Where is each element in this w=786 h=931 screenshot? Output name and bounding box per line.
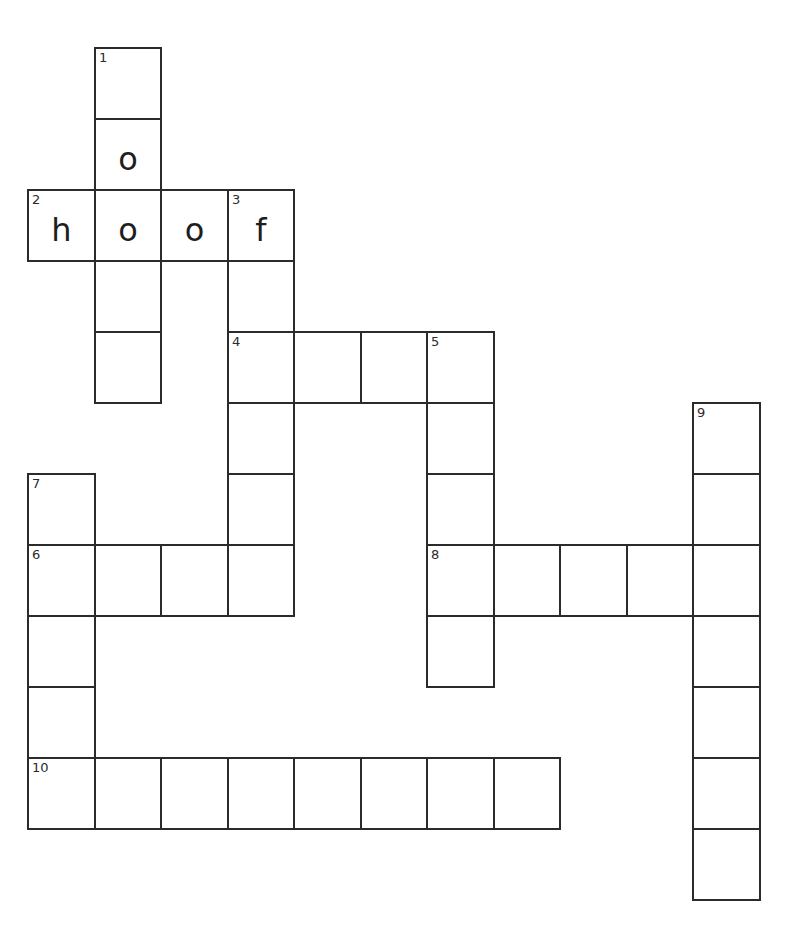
cell-letter: o [162, 191, 227, 260]
cell-letter [561, 546, 626, 615]
crossword-cell-r5-c3[interactable] [227, 402, 295, 475]
crossword-cell-r10-c7[interactable] [493, 757, 561, 830]
cell-letter [428, 404, 493, 473]
crossword-cell-r5-c6[interactable] [426, 402, 495, 475]
cell-letter [96, 49, 160, 118]
crossword-grid: 1oo2ho3f45867109 [0, 0, 786, 931]
crossword-cell-r3-c1[interactable] [94, 260, 162, 333]
cell-letter [295, 759, 360, 828]
cell-letter [29, 759, 94, 828]
crossword-cell-r9-c0[interactable] [27, 686, 96, 759]
cell-letter [96, 759, 160, 828]
crossword-cell-r7-c7[interactable] [493, 544, 561, 617]
crossword-cell-r1-c1[interactable]: o [94, 118, 162, 191]
crossword-cell-r8-c6[interactable] [426, 615, 495, 688]
cell-letter [694, 830, 759, 899]
cell-letter [428, 759, 493, 828]
crossword-cell-r2-c0[interactable]: 2h [27, 189, 96, 262]
crossword-cell-r8-c0[interactable] [27, 615, 96, 688]
cell-letter [29, 617, 94, 686]
cell-letter: o [96, 120, 160, 189]
crossword-cell-r3-c3[interactable] [227, 260, 295, 333]
cell-letter [362, 759, 426, 828]
cell-letter: o [96, 191, 160, 260]
crossword-cell-r7-c0[interactable]: 6 [27, 544, 96, 617]
cell-letter [628, 546, 692, 615]
crossword-cell-r4-c3[interactable]: 4 [227, 331, 295, 404]
cell-letter [29, 688, 94, 757]
crossword-cell-r11-c10[interactable] [692, 828, 761, 901]
cell-letter: f [229, 191, 293, 260]
crossword-cell-r7-c9[interactable] [626, 544, 694, 617]
crossword-cell-r2-c2[interactable]: o [160, 189, 229, 262]
cell-letter [428, 546, 493, 615]
cell-letter [96, 262, 160, 331]
crossword-cell-r7-c8[interactable] [559, 544, 628, 617]
crossword-cell-r2-c3[interactable]: 3f [227, 189, 295, 262]
crossword-cell-r5-c10[interactable]: 9 [692, 402, 761, 475]
cell-letter [694, 404, 759, 473]
crossword-cell-r6-c3[interactable] [227, 473, 295, 546]
crossword-cell-r7-c2[interactable] [160, 544, 229, 617]
crossword-cell-r10-c0[interactable]: 10 [27, 757, 96, 830]
cell-letter [694, 546, 759, 615]
crossword-cell-r0-c1[interactable]: 1 [94, 47, 162, 120]
cell-letter [428, 333, 493, 402]
cell-letter [162, 546, 227, 615]
crossword-cell-r4-c1[interactable] [94, 331, 162, 404]
cell-letter [162, 759, 227, 828]
crossword-cell-r6-c0[interactable]: 7 [27, 473, 96, 546]
crossword-cell-r7-c3[interactable] [227, 544, 295, 617]
cell-letter [362, 333, 426, 402]
cell-letter [229, 759, 293, 828]
crossword-cell-r10-c3[interactable] [227, 757, 295, 830]
crossword-cell-r6-c10[interactable] [692, 473, 761, 546]
cell-letter [96, 333, 160, 402]
crossword-cell-r6-c6[interactable] [426, 473, 495, 546]
crossword-cell-r10-c1[interactable] [94, 757, 162, 830]
crossword-cell-r2-c1[interactable]: o [94, 189, 162, 262]
cell-letter [694, 617, 759, 686]
cell-letter [229, 333, 293, 402]
cell-letter [29, 546, 94, 615]
crossword-cell-r10-c4[interactable] [293, 757, 362, 830]
crossword-cell-r10-c6[interactable] [426, 757, 495, 830]
cell-letter [96, 546, 160, 615]
cell-letter [694, 475, 759, 544]
cell-letter [229, 546, 293, 615]
cell-letter [229, 404, 293, 473]
cell-letter [428, 475, 493, 544]
crossword-cell-r10-c2[interactable] [160, 757, 229, 830]
crossword-cell-r10-c10[interactable] [692, 757, 761, 830]
crossword-cell-r7-c1[interactable] [94, 544, 162, 617]
cell-letter [229, 475, 293, 544]
cell-letter [229, 262, 293, 331]
crossword-cell-r4-c6[interactable]: 5 [426, 331, 495, 404]
cell-letter: h [29, 191, 94, 260]
crossword-cell-r7-c6[interactable]: 8 [426, 544, 495, 617]
crossword-cell-r4-c5[interactable] [360, 331, 428, 404]
crossword-cell-r10-c5[interactable] [360, 757, 428, 830]
cell-letter [29, 475, 94, 544]
crossword-cell-r4-c4[interactable] [293, 331, 362, 404]
cell-letter [694, 759, 759, 828]
crossword-cell-r8-c10[interactable] [692, 615, 761, 688]
cell-letter [495, 546, 559, 615]
cell-letter [495, 759, 559, 828]
cell-letter [295, 333, 360, 402]
cell-letter [428, 617, 493, 686]
crossword-cell-r9-c10[interactable] [692, 686, 761, 759]
crossword-cell-r7-c10[interactable] [692, 544, 761, 617]
cell-letter [694, 688, 759, 757]
